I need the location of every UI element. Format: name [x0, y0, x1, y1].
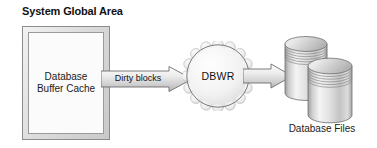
database-files-graphic	[278, 33, 364, 128]
database-cylinder-front	[308, 58, 352, 123]
dirty-blocks-label: Dirty blocks	[107, 73, 169, 83]
dirty-blocks-arrow: Dirty blocks	[101, 66, 193, 92]
database-cylinders-icon	[278, 33, 364, 128]
database-files-label: Database Files	[268, 123, 376, 134]
database-buffer-cache-box: Database Buffer Cache	[28, 32, 104, 134]
page-title: System Global Area	[22, 5, 123, 17]
diagram-canvas: System Global Area Database Buffer Cache…	[0, 0, 377, 148]
buffer-cache-label-line2: Buffer Cache	[37, 83, 95, 96]
buffer-cache-label: Database Buffer Cache	[37, 71, 95, 96]
buffer-cache-label-line1: Database	[37, 71, 95, 84]
system-global-area-box: Database Buffer Cache	[22, 26, 110, 140]
